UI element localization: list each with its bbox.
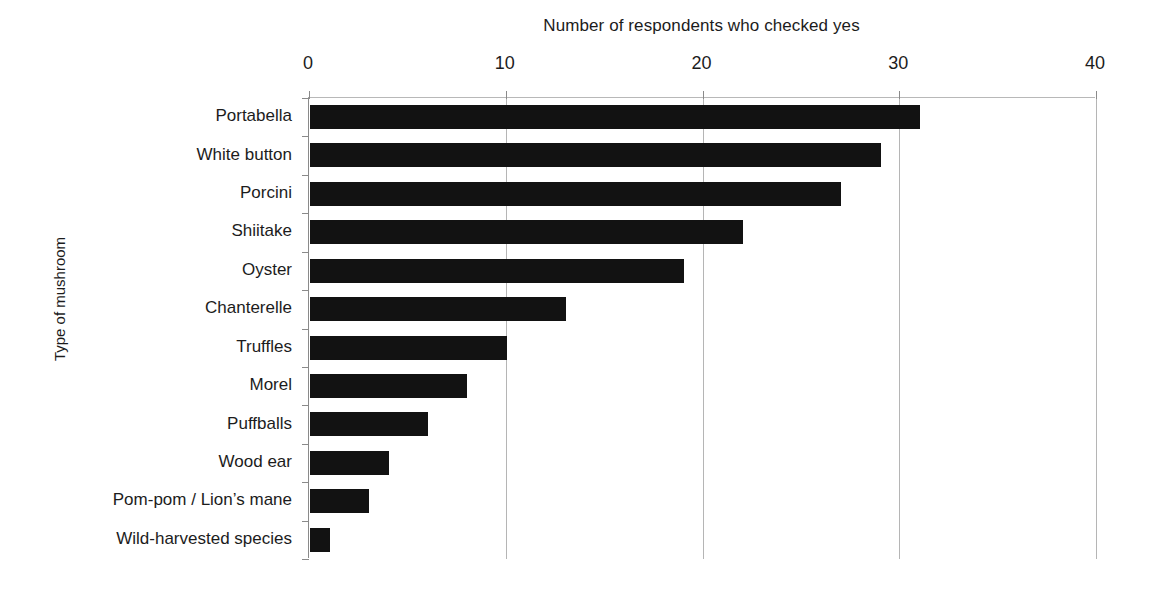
bar[interactable] bbox=[310, 259, 684, 283]
x-tick-mark-40 bbox=[1096, 91, 1097, 99]
x-tick-mark-20 bbox=[703, 91, 704, 99]
bar[interactable] bbox=[310, 105, 920, 129]
x-tick-mark-10 bbox=[506, 91, 507, 99]
x-tick-mark-0 bbox=[309, 91, 310, 99]
y-tick-mark bbox=[302, 252, 309, 253]
y-tick-mark bbox=[302, 367, 309, 368]
x-axis-title: Number of respondents who checked yes bbox=[308, 16, 1095, 36]
x-tick-label-10: 10 bbox=[495, 52, 515, 74]
y-tick-mark bbox=[302, 175, 309, 176]
category-label: White button bbox=[0, 144, 300, 165]
y-tick-mark bbox=[302, 136, 309, 137]
bar[interactable] bbox=[310, 143, 881, 167]
y-tick-mark bbox=[302, 444, 309, 445]
y-tick-mark bbox=[302, 329, 309, 330]
gridline-40 bbox=[1096, 98, 1097, 559]
bar[interactable] bbox=[310, 297, 566, 321]
bar[interactable] bbox=[310, 489, 369, 513]
bar[interactable] bbox=[310, 374, 467, 398]
gridline-30 bbox=[899, 98, 900, 559]
bar-chart: Number of respondents who checked yes 01… bbox=[0, 0, 1153, 593]
bar[interactable] bbox=[310, 412, 428, 436]
y-tick-mark bbox=[302, 521, 309, 522]
bar[interactable] bbox=[310, 451, 389, 475]
y-tick-mark bbox=[302, 290, 309, 291]
category-label: Chanterelle bbox=[0, 297, 300, 318]
y-tick-mark bbox=[302, 482, 309, 483]
category-label: Shiitake bbox=[0, 220, 300, 241]
category-label: Morel bbox=[0, 374, 300, 395]
plot-area bbox=[308, 97, 1095, 558]
x-tick-label-0: 0 bbox=[303, 52, 313, 74]
x-tick-label-40: 40 bbox=[1085, 52, 1105, 74]
category-label: Porcini bbox=[0, 182, 300, 203]
bar[interactable] bbox=[310, 528, 330, 552]
y-tick-mark bbox=[302, 559, 309, 560]
y-tick-mark bbox=[302, 98, 309, 99]
bar[interactable] bbox=[310, 182, 841, 206]
bar[interactable] bbox=[310, 220, 743, 244]
category-label: Puffballs bbox=[0, 413, 300, 434]
x-tick-label-30: 30 bbox=[888, 52, 908, 74]
bar[interactable] bbox=[310, 336, 507, 360]
y-tick-mark bbox=[302, 213, 309, 214]
category-label: Oyster bbox=[0, 259, 300, 280]
y-tick-mark bbox=[302, 405, 309, 406]
category-label: Pom-pom / Lion’s mane bbox=[0, 489, 300, 510]
x-tick-mark-30 bbox=[899, 91, 900, 99]
category-label: Truffles bbox=[0, 336, 300, 357]
category-label: Wood ear bbox=[0, 451, 300, 472]
x-tick-label-20: 20 bbox=[691, 52, 711, 74]
category-label: Wild-harvested species bbox=[0, 528, 300, 549]
category-label: Portabella bbox=[0, 105, 300, 126]
